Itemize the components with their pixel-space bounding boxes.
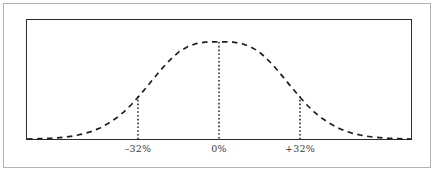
x-tick-label-minus-32-percent: –32%: [125, 143, 152, 154]
x-tick-label-plus-32-percent: +32%: [285, 143, 315, 154]
figure-root: –32% 0% +32%: [0, 0, 438, 175]
x-axis-tick-label-group: –32% 0% +32%: [0, 0, 438, 175]
x-tick-label-zero-percent: 0%: [211, 143, 226, 154]
